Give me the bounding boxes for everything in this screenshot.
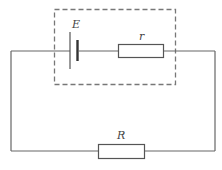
internal-resistance-label: r: [139, 30, 145, 43]
external-resistance-label: R: [116, 129, 125, 142]
external-resistor: [99, 145, 145, 159]
circuit-diagram: E r R: [0, 0, 222, 170]
internal-resistor: [119, 45, 164, 58]
emf-label: E: [71, 18, 80, 31]
